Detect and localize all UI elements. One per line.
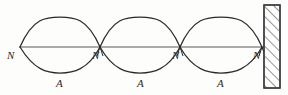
standing-wave-figure: N N N N A A A [0,0,288,95]
lower-envelope-curve [20,47,262,73]
node-label-1: N [7,50,14,61]
wave-diagram-svg [0,0,288,95]
node-label-3: N [172,50,179,61]
antinode-label-1: A [56,78,63,89]
antinode-label-2: A [137,78,144,89]
fixed-end-wall [264,5,280,88]
node-label-4: N [253,50,260,61]
upper-envelope-curve [20,17,262,47]
node-label-2: N [92,50,99,61]
antinode-label-3: A [217,78,224,89]
